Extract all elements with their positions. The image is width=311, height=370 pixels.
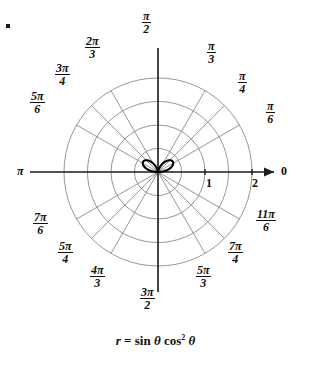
fraction-denominator: 4: [228, 253, 243, 265]
fraction: π4: [238, 70, 247, 95]
fraction: 5π6: [30, 90, 45, 115]
grid-spoke-135deg: [92, 106, 158, 172]
angle-label-5pi-over-3: 5π3: [196, 264, 211, 291]
polar-axis-arrowhead: [264, 168, 274, 177]
fraction-denominator: 4: [55, 75, 70, 87]
fraction: 4π3: [90, 264, 105, 289]
fraction: 5π3: [196, 264, 211, 289]
equation-caption: r = sin θ cos2 θ: [0, 333, 311, 349]
fraction: 3π2: [140, 286, 155, 311]
angle-label-2pi-over-3: 2π3: [85, 35, 100, 62]
equation-sin: sin: [135, 333, 151, 348]
fraction-denominator: 3: [196, 277, 211, 289]
fraction-denominator: 6: [256, 221, 276, 233]
fraction: 2π3: [85, 35, 100, 60]
fraction: π3: [207, 40, 216, 65]
fraction: 11π6: [256, 208, 276, 233]
fraction-denominator: 2: [140, 299, 155, 311]
grid-spoke-315deg: [158, 172, 224, 238]
polar-axis-pi-label: π: [17, 164, 24, 179]
equation-equals: =: [124, 333, 131, 348]
angle-label-7pi-over-6: 7π6: [33, 211, 48, 238]
angle-label-pi-over-2: π2: [142, 10, 151, 37]
fraction-denominator: 2: [142, 23, 151, 35]
angle-label-pi-over-3: π3: [207, 40, 216, 67]
angle-label-7pi-over-4: 7π4: [228, 240, 243, 267]
grid-spoke-45deg: [158, 106, 224, 172]
grid-spoke-330deg: [158, 172, 239, 219]
angle-label-3pi-over-2: 3π2: [140, 286, 155, 313]
grid-spoke-300deg: [158, 172, 205, 253]
angle-label-11pi-over-6: 11π6: [256, 208, 276, 235]
polar-axis-zero-label: 0: [281, 164, 287, 179]
fraction-denominator: 3: [90, 277, 105, 289]
grid-spoke-30deg: [158, 125, 239, 172]
grid-spoke-240deg: [111, 172, 158, 253]
angle-label-pi-over-6: π6: [266, 100, 275, 127]
fraction: 7π4: [228, 240, 243, 265]
equation-theta-1: θ: [154, 333, 161, 348]
fraction: 5π4: [58, 240, 73, 265]
angle-label-3pi-over-4: 3π4: [55, 62, 70, 89]
equation-r: r: [116, 333, 121, 348]
fraction: π6: [266, 100, 275, 125]
fraction-denominator: 3: [207, 53, 216, 65]
fraction-denominator: 6: [33, 224, 48, 236]
fraction-denominator: 3: [85, 48, 100, 60]
fraction-denominator: 6: [30, 103, 45, 115]
fraction-denominator: 4: [238, 83, 247, 95]
radial-tick-label-1: 1: [206, 176, 212, 191]
fraction-denominator: 6: [266, 113, 275, 125]
fraction: π2: [142, 10, 151, 35]
grid-spoke-210deg: [77, 172, 158, 219]
angle-label-5pi-over-4: 5π4: [58, 240, 73, 267]
grid-spoke-150deg: [77, 125, 158, 172]
equation-theta-2: θ: [188, 333, 195, 348]
equation-cos: cos: [164, 333, 181, 348]
grid-spoke-120deg: [111, 91, 158, 172]
grid-spoke-225deg: [92, 172, 158, 238]
angle-label-5pi-over-6: 5π6: [30, 90, 45, 117]
angle-label-pi-over-4: π4: [238, 70, 247, 97]
grid-spoke-60deg: [158, 91, 205, 172]
radial-tick-label-2: 2: [252, 176, 258, 191]
fraction-denominator: 4: [58, 253, 73, 265]
fraction: 3π4: [55, 62, 70, 87]
equation-exponent: 2: [181, 333, 185, 342]
angle-label-4pi-over-3: 4π3: [90, 264, 105, 291]
polar-chart-figure: [0, 0, 311, 370]
fraction: 7π6: [33, 211, 48, 236]
